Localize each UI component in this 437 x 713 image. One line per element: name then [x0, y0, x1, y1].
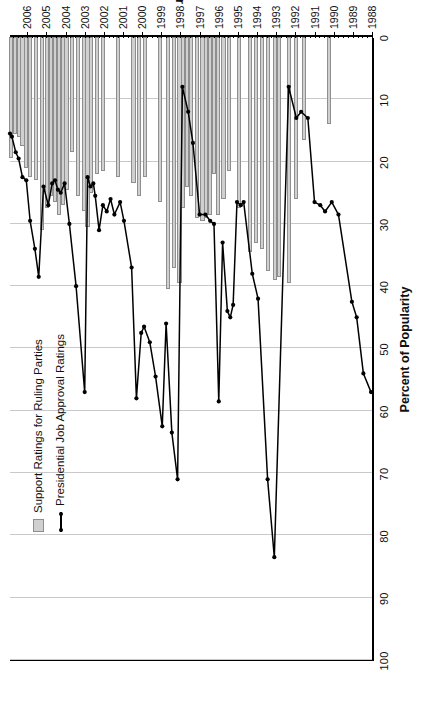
data-point — [235, 200, 239, 204]
category-tick-label: 2002 — [98, 6, 110, 29]
data-point — [175, 477, 179, 481]
category-tick-label: 1991 — [309, 6, 321, 29]
data-point — [37, 275, 41, 279]
category-minor-tick — [176, 35, 177, 38]
category-tick-label: 1996 — [213, 6, 225, 29]
category-tick-label: 1990 — [328, 6, 340, 29]
data-point — [41, 184, 45, 188]
data-point — [323, 209, 327, 213]
category-minor-tick — [51, 35, 52, 38]
data-point — [59, 191, 63, 195]
category-minor-tick — [32, 35, 33, 38]
category-tick-mark — [315, 32, 316, 38]
data-point — [203, 212, 207, 216]
category-minor-tick — [300, 35, 301, 38]
category-tick-mark — [161, 32, 162, 38]
data-point — [239, 203, 243, 207]
data-point — [97, 228, 101, 232]
category-tick-label: 1993 — [270, 6, 282, 29]
data-point — [256, 297, 260, 301]
category-minor-tick — [42, 35, 43, 38]
data-point — [46, 203, 50, 207]
category-minor-tick — [118, 35, 119, 38]
category-minor-tick — [195, 35, 196, 38]
data-point — [20, 175, 24, 179]
category-tick-label: 1992 — [289, 6, 301, 29]
category-minor-tick — [75, 35, 76, 38]
category-minor-tick — [70, 35, 71, 38]
figure: Support Ratings for Ruling Parties Presi… — [0, 0, 437, 713]
category-minor-tick — [99, 35, 100, 38]
data-point — [272, 555, 276, 559]
data-point — [191, 141, 195, 145]
data-point — [336, 212, 340, 216]
data-point — [134, 396, 138, 400]
category-minor-tick — [171, 35, 172, 38]
data-point — [294, 116, 298, 120]
data-point — [198, 212, 202, 216]
category-minor-tick — [37, 35, 38, 38]
data-point — [318, 203, 322, 207]
data-point — [164, 321, 168, 325]
legend-item-support-ratings: Support Ratings for Ruling Parties — [28, 334, 50, 532]
data-point — [50, 181, 54, 185]
category-minor-tick — [109, 35, 110, 38]
category-minor-tick — [291, 35, 292, 38]
value-tick-label: 50 — [378, 343, 390, 356]
category-tick-label: 1994 — [251, 6, 263, 29]
data-point — [93, 194, 97, 198]
category-tick-label: 1998 — [174, 6, 186, 29]
data-point — [17, 156, 21, 160]
category-minor-tick — [262, 35, 263, 38]
category-tick-mark — [238, 32, 239, 38]
category-tick-mark — [142, 32, 143, 38]
category-minor-tick — [243, 35, 244, 38]
category-minor-tick — [286, 35, 287, 38]
data-point — [212, 222, 216, 226]
category-minor-tick — [209, 35, 210, 38]
category-minor-tick — [224, 35, 225, 38]
category-minor-tick — [185, 35, 186, 38]
data-point — [330, 200, 334, 204]
data-point — [130, 265, 134, 269]
data-point — [105, 209, 109, 213]
category-tick-mark — [104, 32, 105, 38]
data-point — [24, 178, 28, 182]
data-point — [217, 399, 221, 403]
category-minor-tick — [367, 35, 368, 38]
category-tick-mark — [219, 32, 220, 38]
category-minor-tick — [310, 35, 311, 38]
category-minor-tick — [94, 35, 95, 38]
category-tick-label: 2005 — [40, 6, 52, 29]
category-minor-tick — [152, 35, 153, 38]
data-point — [101, 203, 105, 207]
value-tick-label: 30 — [378, 219, 390, 232]
data-point — [118, 200, 122, 204]
category-minor-tick — [362, 35, 363, 38]
data-point — [139, 331, 143, 335]
category-tick-mark — [257, 32, 258, 38]
category-minor-tick — [214, 35, 215, 38]
category-minor-tick — [22, 35, 23, 38]
category-minor-tick — [56, 35, 57, 38]
data-point — [88, 184, 92, 188]
category-minor-tick — [113, 35, 114, 38]
category-tick-label: 2000 — [136, 6, 148, 29]
category-tick-label: 2006 — [21, 6, 33, 29]
category-minor-tick — [329, 35, 330, 38]
category-tick-mark — [276, 32, 277, 38]
category-tick-mark — [295, 32, 296, 38]
category-minor-tick — [343, 35, 344, 38]
category-minor-tick — [13, 35, 14, 38]
category-minor-tick — [147, 35, 148, 38]
data-point — [8, 131, 12, 135]
category-minor-tick — [128, 35, 129, 38]
data-point — [225, 309, 229, 313]
category-minor-tick — [228, 35, 229, 38]
data-point — [91, 181, 95, 185]
category-minor-tick — [80, 35, 81, 38]
data-point — [312, 200, 316, 204]
category-minor-tick — [137, 35, 138, 38]
legend-item-presidential-approval: Presidential Job Approval Ratings — [50, 334, 72, 532]
category-tick-mark — [27, 32, 28, 38]
